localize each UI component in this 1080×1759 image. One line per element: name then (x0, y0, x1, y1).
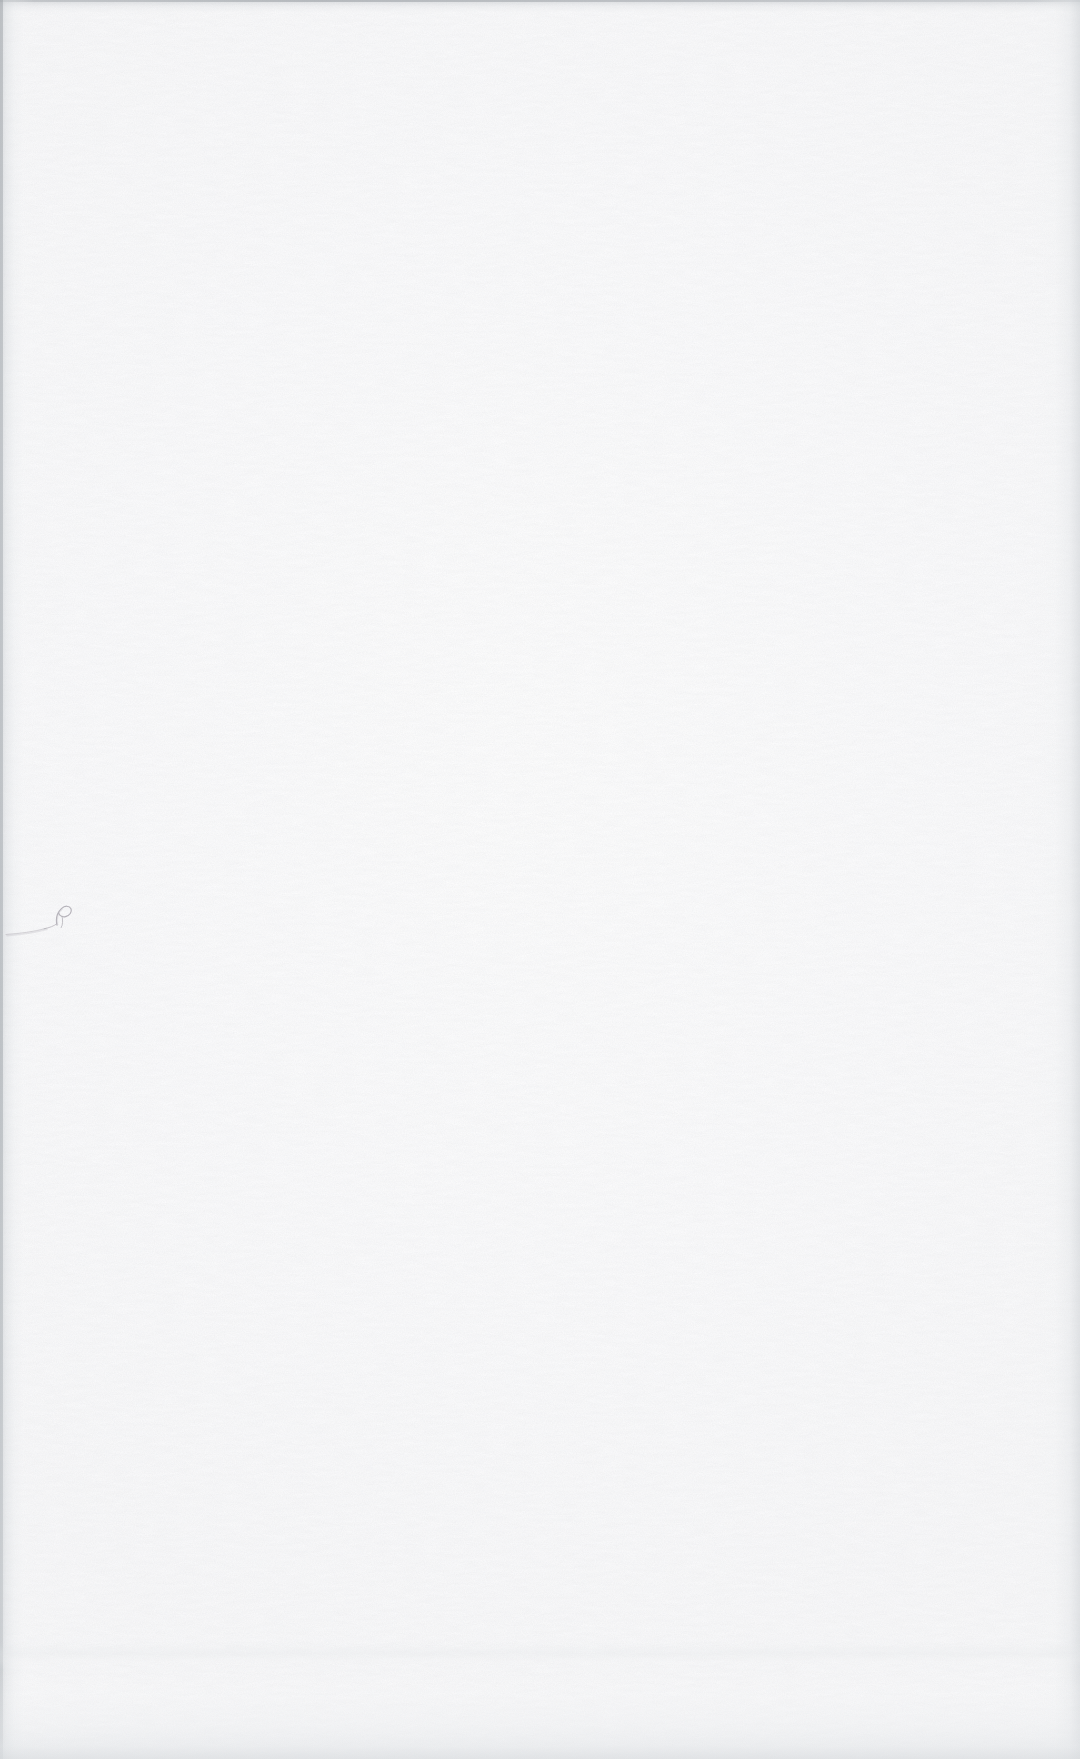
paper-texture (0, 0, 1080, 1759)
top-edge-hairline (0, 0, 1080, 2)
bottom-scan-edge-shadow (0, 1669, 1080, 1759)
right-scan-edge-shadow (1032, 0, 1080, 1759)
left-edge-hairline (0, 0, 3, 1759)
bottom-edge-band (0, 1737, 1080, 1759)
scanned-page (0, 0, 1080, 1759)
top-scan-edge-shadow (0, 0, 1080, 18)
handwritten-pen-mark (0, 892, 110, 950)
paper-crease-band (0, 1642, 1080, 1668)
left-scan-edge-shadow (0, 0, 34, 1759)
